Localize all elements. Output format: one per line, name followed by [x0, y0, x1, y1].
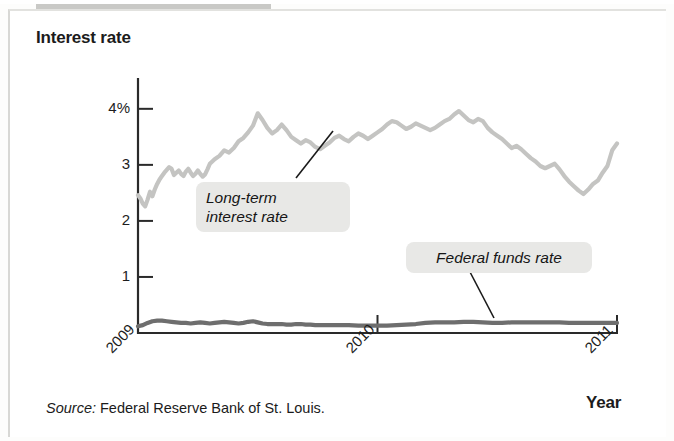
x-axis-title: Year — [586, 393, 621, 412]
figure-container: Interest rate Year 1234% 200920102011 Lo… — [0, 0, 674, 441]
source-note: Source: Federal Reserve Bank of St. Loui… — [46, 400, 325, 416]
source-text: Federal Reserve Bank of St. Louis. — [96, 400, 325, 416]
annotation-long-term-interest-rate: Long-term interest rate — [196, 182, 350, 232]
long-term-leader-line — [296, 131, 333, 178]
annotation-federal-funds-rate: Federal funds rate — [406, 242, 592, 273]
y-tick-label-2: 2 — [88, 211, 130, 228]
y-axis-title: Interest rate — [36, 28, 156, 47]
y-tick-label-3: 3 — [88, 155, 130, 172]
y-tick-label-1: 1 — [88, 267, 130, 284]
source-label: Source: — [46, 400, 96, 416]
federal-funds-leader-line — [470, 272, 494, 318]
y-tick-label-4: 4% — [88, 99, 130, 116]
